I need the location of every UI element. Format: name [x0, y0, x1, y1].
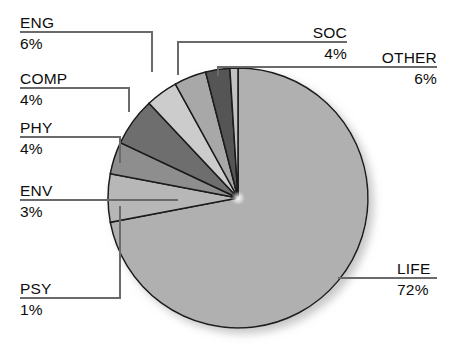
label-psy-name: PSY [20, 281, 52, 297]
label-other-pct: 6% [347, 71, 437, 87]
label-phy-name: PHY [20, 120, 52, 136]
label-life-pct: 72% [397, 282, 429, 298]
label-env-name: ENV [20, 183, 52, 199]
label-psy-pct: 1% [20, 302, 43, 318]
label-env-pct: 3% [20, 204, 43, 220]
label-soc-pct: 4% [267, 46, 347, 62]
label-comp-name: COMP [20, 71, 67, 87]
label-soc-name: SOC [267, 25, 347, 41]
label-comp-pct: 4% [20, 92, 43, 108]
pie-chart-figure: ENG 6% COMP 4% PHY 4% ENV 3% PSY 1% SOC … [0, 0, 454, 346]
label-life-name: LIFE [397, 261, 431, 277]
label-eng-pct: 6% [20, 36, 43, 52]
pie-center-highlight [231, 191, 245, 205]
label-eng-name: ENG [20, 15, 54, 31]
label-other-name: OTHER [347, 50, 437, 66]
label-phy-pct: 4% [20, 141, 43, 157]
